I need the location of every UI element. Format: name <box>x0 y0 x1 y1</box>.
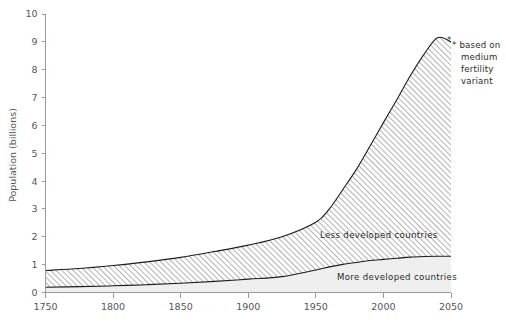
y-axis-title: Population (billions) <box>7 108 18 202</box>
x-tick-label: 1750 <box>33 301 57 312</box>
x-tick-label: 2050 <box>439 301 463 312</box>
note-line-4: variant <box>461 76 493 86</box>
y-tick-label: 10 <box>25 8 37 19</box>
note-line-1: * based on <box>452 40 500 50</box>
note-asterisk-marker: * <box>447 35 452 45</box>
note-line-3: fertility <box>461 64 494 74</box>
x-tick-label: 2000 <box>371 301 395 312</box>
y-tick-label: 3 <box>31 203 37 214</box>
y-tick-label: 4 <box>31 176 37 187</box>
y-tick-label: 5 <box>31 148 37 159</box>
y-tick-label: 7 <box>31 92 37 103</box>
y-tick-label: 1 <box>31 259 37 270</box>
y-tick-label: 0 <box>31 287 37 298</box>
population-growth-chart: 012345678910 175018001850190019502000205… <box>0 0 506 323</box>
label-less-developed-countries: Less developed countries <box>320 230 438 240</box>
y-tick-label: 8 <box>31 64 37 75</box>
y-tick-label: 9 <box>31 36 37 47</box>
y-tick-label: 6 <box>31 120 37 131</box>
x-tick-label: 1900 <box>236 301 260 312</box>
note-line-2: medium <box>461 52 498 62</box>
label-more-developed-countries: More developed countries <box>337 272 457 282</box>
x-tick-label: 1800 <box>101 301 125 312</box>
x-tick-label: 1850 <box>169 301 193 312</box>
x-tick-label: 1950 <box>304 301 328 312</box>
chart-canvas: 012345678910 175018001850190019502000205… <box>0 0 506 323</box>
y-tick-label: 2 <box>31 231 37 242</box>
